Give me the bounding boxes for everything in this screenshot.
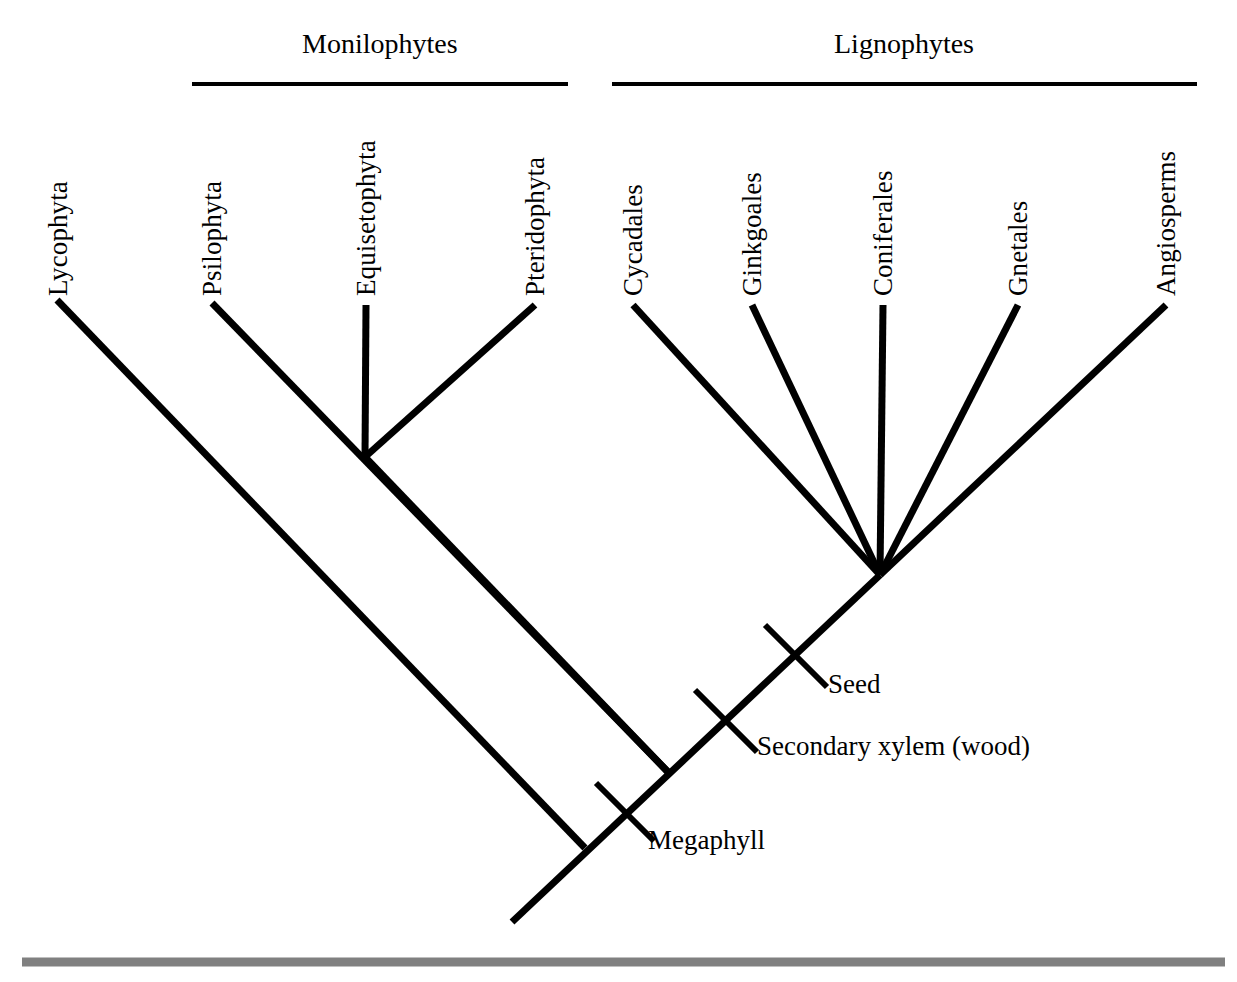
branch-cycadales [633, 305, 880, 575]
taxon-label-equisetophyta: Equisetophyta [353, 140, 380, 296]
taxon-label-coniferales: Coniferales [870, 170, 897, 296]
branch-ginkgoales [752, 305, 880, 575]
branch-monilophyte-stem [365, 457, 668, 772]
taxon-label-pteridophyta: Pteridophyta [522, 157, 549, 296]
taxon-label-angiosperms: Angiosperms [1153, 151, 1180, 296]
branch-pteridophyta [365, 305, 535, 457]
taxon-label-psilophyta: Psilophyta [199, 181, 226, 296]
branch-gnetales [880, 305, 1018, 575]
trait-label-megaphyll: Megaphyll [648, 827, 765, 854]
clade-title-lignophytes: Lignophytes [834, 30, 974, 58]
trait-label-seed: Seed [828, 671, 880, 698]
branch-equisetophyta [365, 305, 366, 457]
cladogram-figure: MonilophytesLignophytes LycophytaPsiloph… [0, 0, 1237, 982]
taxon-label-lycophyta: Lycophyta [45, 181, 72, 296]
clade-title-monilophytes: Monilophytes [302, 30, 458, 58]
branch-lycophyta [57, 300, 585, 848]
branch-coniferales [880, 305, 883, 575]
taxon-label-cycadales: Cycadales [620, 184, 647, 296]
trait-label-secondary-xylem: Secondary xylem (wood) [757, 733, 1030, 760]
taxon-label-ginkgoales: Ginkgoales [739, 172, 766, 296]
branch-line-group [57, 300, 1166, 922]
cladogram-canvas [0, 0, 1237, 982]
branch-angiosperms [880, 305, 1166, 575]
taxon-label-gnetales: Gnetales [1005, 201, 1032, 296]
